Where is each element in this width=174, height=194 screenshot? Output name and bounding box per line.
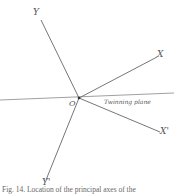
label-origin: O <box>69 100 76 108</box>
twinning-plane-label: Twinning plane <box>104 99 151 105</box>
principal-axes-diagram: Y X X' Y' O Twinning plane Fig. 14. Loca… <box>0 0 174 194</box>
origin-point <box>78 97 81 100</box>
axis-y <box>41 20 79 98</box>
figure-caption: Fig. 14. Location of the principal axes … <box>2 185 136 194</box>
label-x-prime: X' <box>160 127 169 136</box>
axis-x <box>79 57 157 98</box>
axis-y-prime <box>46 98 79 180</box>
label-y: Y <box>33 8 39 17</box>
axes-drawing <box>0 0 174 194</box>
label-x: X <box>157 50 163 59</box>
